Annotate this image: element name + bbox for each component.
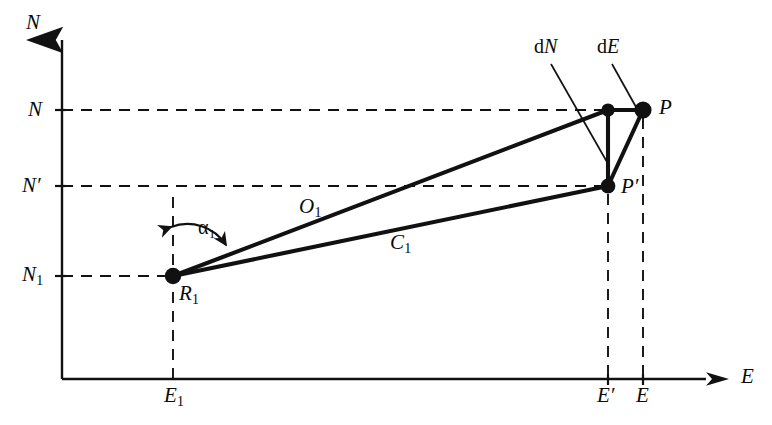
leader-lines-group	[551, 64, 636, 162]
label-de-variable: E	[607, 35, 619, 57]
label-de-prefix: d	[597, 35, 607, 57]
leader-line-de	[612, 64, 636, 107]
angle-label-alpha1: α1	[198, 217, 215, 240]
coordinate-diagram: N E N N′ N1 E1 E′ E R1 P P′ O1 C1 α1 dN …	[0, 0, 772, 425]
angle-label-alpha1-subscript: 1	[208, 226, 215, 241]
tick-label-n-prime: N′	[22, 175, 41, 196]
point-corner-dot	[601, 103, 614, 116]
point-p-prime-dot	[601, 179, 616, 194]
point-p-dot	[634, 101, 651, 118]
point-label-r1-subscript: 1	[192, 292, 199, 307]
tick-label-n: N	[28, 99, 42, 120]
label-dn: dN	[534, 36, 557, 56]
label-de: dE	[597, 36, 619, 56]
tick-marks-group	[55, 110, 643, 385]
dashed-guides-group	[62, 110, 643, 379]
segment-label-o1: O1	[299, 196, 321, 220]
point-label-r1: R1	[179, 283, 199, 307]
label-dn-prefix: d	[534, 35, 544, 57]
point-label-p-prime: P′	[621, 176, 638, 197]
segment-label-c1-subscript: 1	[404, 241, 411, 256]
tick-label-e1-subscript: 1	[177, 394, 184, 409]
horizontal-axis-arrowhead	[706, 372, 729, 386]
axes-group	[62, 40, 706, 379]
segment-label-o1-subscript: 1	[314, 205, 321, 220]
tick-label-e: E	[636, 385, 649, 406]
tick-label-e-prime: E′	[597, 385, 614, 406]
axis-label-vertical: N	[26, 12, 40, 33]
point-label-p: P	[659, 97, 672, 118]
label-dn-variable: N	[544, 35, 557, 57]
segment-label-c1: C1	[390, 232, 411, 256]
tick-label-n1: N1	[22, 264, 43, 288]
axis-label-horizontal: E	[741, 366, 754, 387]
diagram-canvas	[0, 0, 772, 425]
tick-label-e1: E1	[164, 385, 184, 409]
tick-label-n1-subscript: 1	[36, 273, 43, 288]
